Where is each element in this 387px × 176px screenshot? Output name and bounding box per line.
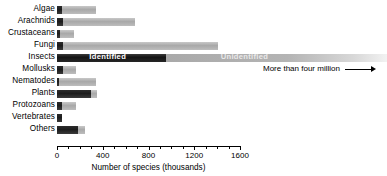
tick-label-1600: 1600	[220, 151, 260, 161]
stacked-bar-protozoans	[57, 102, 76, 110]
tick-label-800: 800	[129, 151, 169, 161]
stacked-bar-others	[57, 126, 85, 134]
category-label-algae: Algae	[0, 3, 55, 15]
stacked-bar-mollusks	[57, 66, 76, 74]
bar-segment-unidentified-nematodes	[59, 78, 96, 86]
minor-tick-900	[160, 146, 161, 149]
minor-tick-700	[137, 146, 138, 149]
legend-label-unidentified: Unidentified	[221, 53, 268, 61]
more-than-four-million-annotation: More than four million	[263, 64, 340, 74]
category-label-mollusks: Mollusks	[0, 63, 55, 75]
bar-segment-identified-vertebrates	[57, 114, 62, 122]
bar-row-plants: Plants	[0, 88, 387, 100]
bar-segment-unidentified-mollusks	[63, 66, 76, 74]
x-axis-title: Number of species (thousands)	[57, 162, 240, 173]
stacked-bar-fungi	[57, 42, 218, 50]
bar-row-others: Others	[0, 124, 387, 136]
bar-segment-identified-others	[57, 126, 78, 134]
major-tick-0	[57, 146, 58, 150]
bar-row-nematodes: Nematodes	[0, 76, 387, 88]
bar-segment-identified-plants	[57, 90, 91, 98]
category-label-protozoans: Protozoans	[0, 99, 55, 111]
bar-segment-unidentified-insects	[166, 54, 387, 62]
minor-tick-300	[91, 146, 92, 149]
bar-segment-unidentified-algae	[62, 6, 97, 14]
bar-row-insects: InsectsIdentifiedUnidentified	[0, 52, 387, 64]
stacked-bar-plants	[57, 90, 97, 98]
category-label-arachnids: Arachnids	[0, 15, 55, 27]
minor-tick-500	[114, 146, 115, 149]
category-label-crustaceans: Crustaceans	[0, 27, 55, 39]
bar-segment-unidentified-crustaceans	[60, 30, 74, 38]
major-tick-1600	[240, 146, 241, 150]
bar-row-crustaceans: Crustaceans	[0, 28, 387, 40]
tick-label-1200: 1200	[174, 151, 214, 161]
callout-arrow-line	[345, 69, 372, 70]
bar-row-fungi: Fungi	[0, 40, 387, 52]
species-bar-chart: AlgaeArachnidsCrustaceansFungiInsectsIde…	[0, 0, 387, 176]
bar-segment-unidentified-others	[78, 126, 85, 134]
stacked-bar-algae	[57, 6, 96, 14]
category-label-nematodes: Nematodes	[0, 75, 55, 87]
bar-row-vertebrates: Vertebrates	[0, 112, 387, 124]
category-label-vertebrates: Vertebrates	[0, 111, 55, 123]
minor-tick-1300	[206, 146, 207, 149]
stacked-bar-nematodes	[57, 78, 96, 86]
major-tick-400	[103, 146, 104, 150]
bar-segment-unidentified-fungi	[63, 42, 217, 50]
major-tick-800	[149, 146, 150, 150]
minor-tick-600	[126, 146, 127, 149]
stacked-bar-vertebrates	[57, 114, 62, 122]
bar-segment-unidentified-arachnids	[63, 18, 135, 26]
stacked-bar-arachnids	[57, 18, 135, 26]
category-label-fungi: Fungi	[0, 39, 55, 51]
minor-tick-200	[80, 146, 81, 149]
bar-segment-unidentified-protozoans	[62, 102, 76, 110]
bar-row-algae: Algae	[0, 4, 387, 16]
bar-row-protozoans: Protozoans	[0, 100, 387, 112]
callout-arrow-head	[371, 66, 376, 72]
bar-segment-unidentified-plants	[91, 90, 97, 98]
minor-tick-100	[68, 146, 69, 149]
minor-tick-1500	[229, 146, 230, 149]
category-label-others: Others	[0, 123, 55, 135]
tick-label-0: 0	[37, 151, 77, 161]
minor-tick-1400	[217, 146, 218, 149]
tick-label-400: 400	[83, 151, 123, 161]
bar-row-arachnids: Arachnids	[0, 16, 387, 28]
minor-tick-1000	[171, 146, 172, 149]
legend-label-identified: Identified	[89, 53, 126, 61]
category-label-insects: Insects	[0, 51, 55, 63]
minor-tick-1100	[183, 146, 184, 149]
major-tick-1200	[194, 146, 195, 150]
category-label-plants: Plants	[0, 87, 55, 99]
stacked-bar-crustaceans	[57, 30, 74, 38]
